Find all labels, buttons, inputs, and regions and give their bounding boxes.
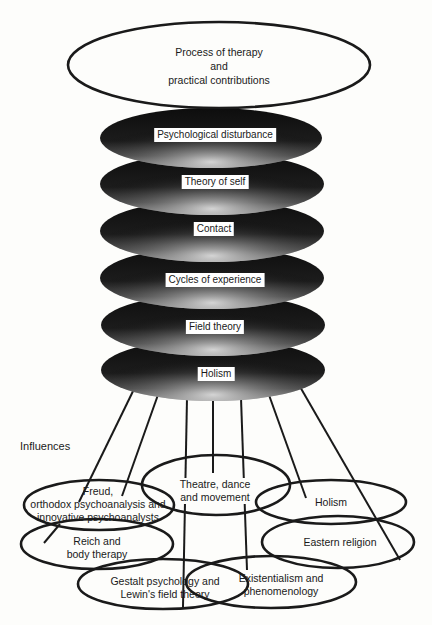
layer-field-theory: Field theory	[186, 320, 244, 334]
influence-existentialism-line1: Existentialism and	[239, 572, 324, 585]
influence-freud-line1: Freud,	[30, 485, 165, 498]
influence-freud-line3: innovative psychoanalysts	[30, 511, 165, 524]
influence-theatre-line1: Theatre, dance	[180, 478, 251, 491]
theory-layers	[100, 108, 325, 401]
top-ellipse-label: Process of therapy and practical contrib…	[69, 45, 369, 87]
influence-freud-line2: orthodox psychoanalysis and	[30, 498, 165, 511]
influence-freud: Freud, orthodox psychoanalysis and innov…	[30, 485, 165, 524]
influence-existentialism: Existentialism and phenomenology	[239, 572, 324, 598]
influence-reich-line1: Reich and	[67, 535, 128, 548]
influence-theatre: Theatre, dance and movement	[180, 478, 251, 504]
influence-holism: Holism	[315, 496, 347, 509]
influence-holism-line1: Holism	[315, 496, 347, 509]
top-label-line1: Process of therapy	[69, 45, 369, 59]
influence-gestalt: Gestalt psychology and Lewin's field the…	[110, 575, 219, 601]
influence-existentialism-line2: phenomenology	[239, 585, 324, 598]
influences-heading: Influences	[20, 440, 70, 452]
influence-eastern-religion: Eastern religion	[304, 536, 377, 549]
top-label-line3: practical contributions	[69, 73, 369, 87]
influence-gestalt-line1: Gestalt psychology and	[110, 575, 219, 588]
influence-eastern-line1: Eastern religion	[304, 536, 377, 549]
layer-contact: Contact	[194, 222, 234, 236]
layer-cycles-of-experience: Cycles of experience	[166, 273, 265, 287]
influence-gestalt-line2: Lewin's field theory	[110, 588, 219, 601]
layer-psychological-disturbance: Psychological disturbance	[154, 128, 276, 142]
influence-reich: Reich and body therapy	[67, 535, 128, 561]
layer-theory-of-self: Theory of self	[182, 175, 249, 189]
layer-holism: Holism	[198, 367, 235, 381]
influence-reich-line2: body therapy	[67, 548, 128, 561]
top-label-line2: and	[69, 59, 369, 73]
influence-theatre-line2: and movement	[180, 491, 251, 504]
diagram-graphics	[0, 0, 432, 625]
